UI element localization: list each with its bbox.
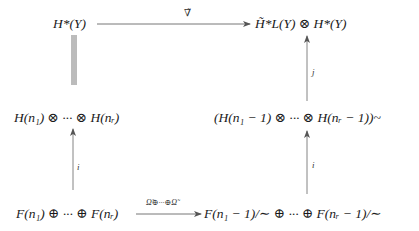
label-right-upper-arrow: j — [312, 67, 315, 77]
triple-line-equality — [72, 35, 76, 85]
label-top-arrow: ∇̃ — [184, 8, 191, 18]
label-left-lower-arrow: i — [77, 162, 80, 172]
node-top-left: H*(Y) — [53, 16, 86, 32]
label-right-lower-arrow: i — [312, 160, 315, 170]
node-mid-right: (H(n₁ − 1) ⊗ ··· ⊗ H(nᵣ − 1))~ — [214, 110, 381, 126]
node-mid-left: H(n₁) ⊗ ··· ⊗ H(nᵣ) — [14, 110, 119, 126]
label-bottom-arrow: Ω̃⊕···⊕Ω̃ — [146, 198, 177, 208]
node-top-right: H̃*L(Y) ⊗ H*(Y) — [255, 16, 347, 32]
node-bottom-left: F(n₁) ⊕ ··· ⊕ F(nᵣ) — [16, 206, 118, 222]
node-bottom-right: F(n₁ − 1)/∼ ⊕ ··· ⊕ F(nᵣ − 1)/∼ — [204, 206, 382, 222]
